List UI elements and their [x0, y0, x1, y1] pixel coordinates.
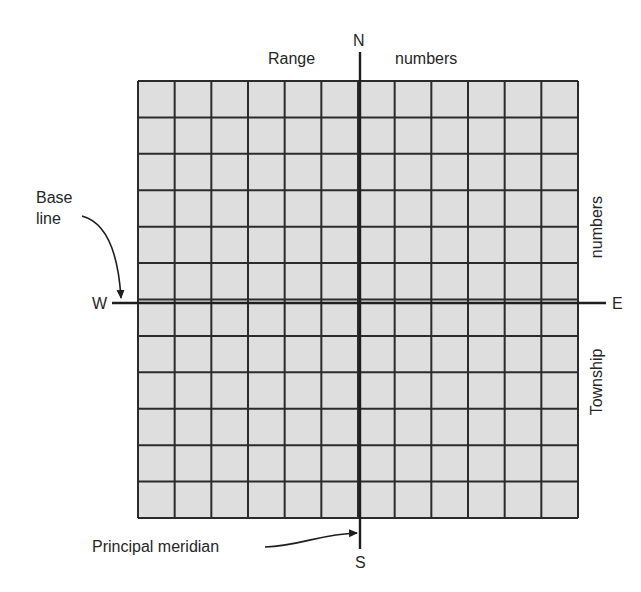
township-numbers-label: numbers: [589, 190, 605, 264]
principal-meridian-label: Principal meridian: [92, 539, 219, 555]
base-line-arrow: [82, 216, 121, 298]
range-label: Range: [268, 51, 315, 67]
compass-west-label: W: [92, 296, 107, 312]
range-numbers-label: numbers: [395, 51, 457, 67]
compass-north-label: N: [353, 33, 365, 49]
principal-meridian-arrow: [265, 533, 357, 547]
township-label: Township: [589, 342, 605, 422]
base-line-label-line2: line: [36, 211, 61, 227]
base-line-label-line1: Base: [36, 190, 72, 206]
compass-east-label: E: [612, 296, 623, 312]
township-range-diagram: N S W E Range numbers numbers Township B…: [0, 0, 641, 592]
compass-south-label: S: [355, 555, 366, 571]
